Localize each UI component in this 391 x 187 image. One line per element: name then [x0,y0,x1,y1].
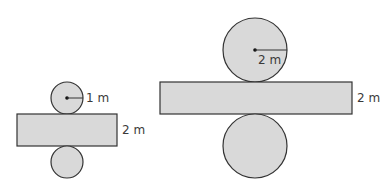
large-cylinder-net: 2 m 2 m [160,18,380,178]
small-lateral-rectangle [17,114,117,146]
large-bottom-circle [223,114,287,178]
cylinder-nets-diagram: 1 m 2 m 2 m 2 m [0,0,391,187]
large-height-label: 2 m [357,91,380,105]
large-radius-label: 2 m [258,53,281,67]
small-cylinder-net: 1 m 2 m [17,82,145,178]
large-lateral-rectangle [160,82,352,114]
small-bottom-circle [51,146,83,178]
small-radius-label: 1 m [86,91,109,105]
small-height-label: 2 m [122,123,145,137]
